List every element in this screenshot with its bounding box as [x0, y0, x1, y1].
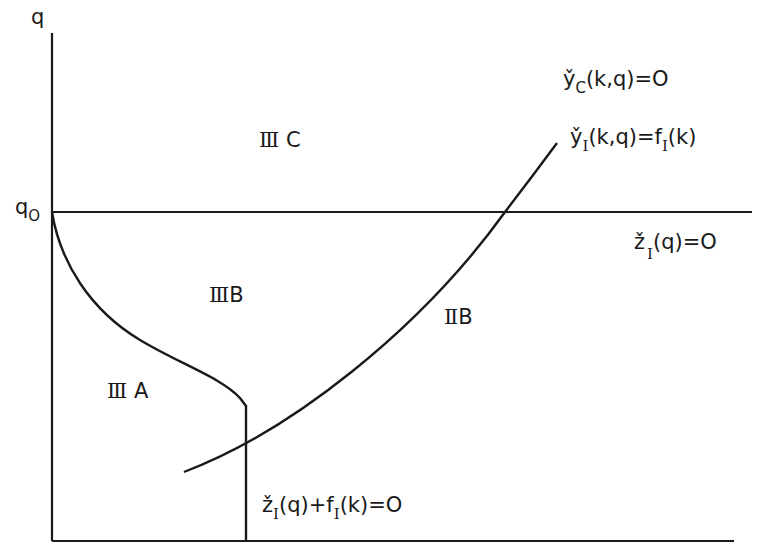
- region-letter: A: [134, 379, 148, 403]
- region-roman: Ⅲ: [259, 128, 279, 152]
- label-sub2: I: [662, 137, 668, 155]
- label-sub: I: [582, 137, 588, 155]
- region-IIIC: Ⅲ C: [259, 130, 301, 151]
- label-sub: I: [647, 245, 653, 263]
- curve-label-yc: y̌C(k,q)=O: [563, 69, 669, 90]
- q0-label-base: q: [15, 195, 28, 219]
- label-rest: (k,q)=O: [586, 67, 669, 91]
- boundary-curve-right: [184, 143, 557, 472]
- label-rest: (q)=O: [653, 230, 717, 254]
- label-rest2: (k): [668, 125, 697, 149]
- region-roman: Ⅲ: [107, 379, 127, 403]
- region-letter: B: [458, 305, 472, 329]
- y-axis-label: q: [31, 7, 44, 28]
- region-IIIA: Ⅲ A: [107, 381, 148, 402]
- region-IIIB: ⅢB: [209, 285, 244, 306]
- q0-label: qO: [15, 197, 40, 218]
- label-sub2: I: [334, 505, 340, 523]
- label-rest: (k,q)=f: [588, 125, 662, 149]
- label-sub: C: [575, 79, 585, 97]
- region-letter: C: [286, 128, 301, 152]
- boundary-curve-left: [52, 212, 246, 541]
- label-base: y̌: [570, 125, 582, 149]
- label-sub: I: [273, 505, 279, 523]
- label-rest2: (k)=O: [340, 493, 403, 517]
- curve-label-yi: y̌I(k,q)=fI(k): [570, 127, 696, 148]
- label-base: y̌: [563, 67, 575, 91]
- curve-label-zf: žI(q)+fI(k)=O: [262, 495, 402, 516]
- label-base: ž: [262, 493, 273, 517]
- label-base: ž: [634, 230, 645, 254]
- label-rest: (q)+f: [279, 493, 334, 517]
- y-axis-label-text: q: [31, 5, 44, 29]
- region-IIB: ⅡB: [444, 307, 473, 328]
- q0-label-sub: O: [28, 207, 40, 225]
- curve-label-zi: žI(q)=O: [634, 232, 717, 253]
- region-roman: Ⅲ: [209, 283, 229, 307]
- region-roman: Ⅱ: [444, 305, 458, 329]
- region-letter: B: [229, 283, 243, 307]
